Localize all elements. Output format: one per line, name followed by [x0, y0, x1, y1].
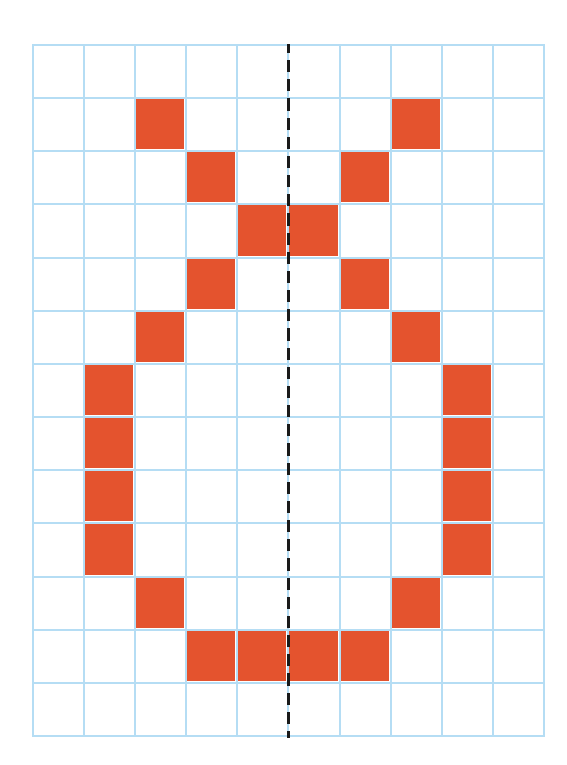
grid-cell — [390, 629, 441, 682]
grid-cell — [492, 150, 543, 203]
grid-cell — [339, 469, 390, 522]
filled-cell — [83, 522, 134, 575]
grid-cell — [441, 310, 492, 363]
grid-cell — [287, 97, 338, 150]
grid-cell — [492, 416, 543, 469]
filled-cell — [83, 469, 134, 522]
grid-cell — [32, 576, 83, 629]
filled-cell — [134, 97, 185, 150]
grid-cell — [441, 682, 492, 735]
grid-cell — [134, 416, 185, 469]
grid-cell — [492, 469, 543, 522]
grid-cell — [339, 203, 390, 256]
grid-cell — [236, 576, 287, 629]
filled-cell — [134, 310, 185, 363]
grid-cell — [185, 469, 236, 522]
grid-cell — [339, 44, 390, 97]
grid-cell — [339, 576, 390, 629]
grid-cell — [83, 310, 134, 363]
grid-cell — [339, 522, 390, 575]
grid-cell — [236, 310, 287, 363]
grid-cell — [134, 682, 185, 735]
filled-cell — [185, 150, 236, 203]
grid-cell — [492, 257, 543, 310]
filled-cell — [390, 576, 441, 629]
grid-cell — [390, 469, 441, 522]
grid-cell — [287, 44, 338, 97]
grid-cell — [236, 44, 287, 97]
grid-cell — [32, 257, 83, 310]
grid-cell — [236, 97, 287, 150]
grid-cell — [492, 629, 543, 682]
grid-cell — [134, 363, 185, 416]
grid-cell — [236, 469, 287, 522]
grid-cell — [441, 629, 492, 682]
grid-cell — [339, 682, 390, 735]
grid-cell — [287, 257, 338, 310]
filled-cell — [236, 203, 287, 256]
grid-cell — [390, 257, 441, 310]
grid-cell — [441, 257, 492, 310]
grid-cell — [441, 44, 492, 97]
grid-cell — [390, 150, 441, 203]
grid-cell — [83, 150, 134, 203]
grid-cell — [134, 150, 185, 203]
grid-cell — [83, 682, 134, 735]
grid-cell — [32, 150, 83, 203]
grid-cell — [185, 310, 236, 363]
grid-cell — [287, 522, 338, 575]
grid-cell — [492, 97, 543, 150]
filled-cell — [339, 150, 390, 203]
grid-cell — [32, 203, 83, 256]
grid-cell — [236, 522, 287, 575]
grid-cell — [185, 682, 236, 735]
filled-cell — [441, 522, 492, 575]
grid-cell — [390, 416, 441, 469]
filled-cell — [339, 257, 390, 310]
grid-cell — [32, 522, 83, 575]
grid-cell — [185, 363, 236, 416]
grid-cell — [390, 44, 441, 97]
grid-cell — [441, 150, 492, 203]
grid-cell — [32, 416, 83, 469]
filled-cell — [83, 416, 134, 469]
grid-cell — [134, 522, 185, 575]
grid-cell — [236, 363, 287, 416]
grid-cell — [287, 682, 338, 735]
filled-cell — [441, 469, 492, 522]
grid-cell — [83, 576, 134, 629]
grid-cell — [134, 44, 185, 97]
grid-cell — [287, 150, 338, 203]
grid-cell — [287, 469, 338, 522]
filled-cell — [390, 97, 441, 150]
grid-cell — [287, 310, 338, 363]
grid-cell — [390, 203, 441, 256]
grid-cell — [492, 363, 543, 416]
grid-cell — [236, 257, 287, 310]
grid-cell — [134, 203, 185, 256]
grid-cell — [185, 203, 236, 256]
grid-cell — [185, 416, 236, 469]
grid-cell — [287, 416, 338, 469]
grid-cell — [185, 97, 236, 150]
grid-cell — [32, 363, 83, 416]
grid-cell — [134, 469, 185, 522]
grid-cell — [339, 310, 390, 363]
filled-cell — [134, 576, 185, 629]
grid-cell — [339, 97, 390, 150]
grid-cell — [185, 576, 236, 629]
grid-cell — [492, 203, 543, 256]
grid-cell — [83, 44, 134, 97]
symmetry-axis-dashed-line — [287, 44, 290, 738]
grid-cell — [32, 97, 83, 150]
filled-cell — [441, 416, 492, 469]
filled-cell — [185, 257, 236, 310]
grid-cell — [32, 44, 83, 97]
grid-cell — [83, 629, 134, 682]
grid-cell — [390, 682, 441, 735]
filled-cell — [287, 629, 338, 682]
grid-cell — [492, 682, 543, 735]
grid-cell — [185, 522, 236, 575]
grid-cell — [390, 522, 441, 575]
grid-cell — [492, 310, 543, 363]
